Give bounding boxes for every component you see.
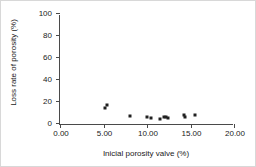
y-axis-title: Loss rate of porosity (%) — [9, 8, 18, 118]
y-axis-tick: 40 — [56, 79, 60, 80]
x-axis-tick: 5.00 — [104, 124, 105, 128]
data-point — [149, 116, 152, 119]
data-point — [159, 117, 162, 120]
y-axis-tick: 100 — [56, 13, 60, 14]
data-point — [146, 116, 149, 119]
data-point — [129, 115, 132, 118]
x-axis-tick-label: 5.00 — [97, 130, 113, 138]
y-axis-tick-label: 0 — [48, 120, 52, 128]
data-point — [184, 115, 187, 118]
x-axis-tick-label: 15.00 — [181, 130, 201, 138]
data-point — [193, 114, 196, 117]
x-axis-title: Inicial porosity valve (%) — [59, 149, 233, 158]
data-point — [167, 116, 170, 119]
plot-area: 020406080100 0.005.0010.0015.0020.00 — [59, 15, 233, 125]
y-axis-tick-label: 60 — [43, 54, 52, 62]
y-axis-tick-label: 40 — [43, 76, 52, 84]
x-axis-tick: 10.00 — [147, 124, 148, 128]
x-axis-tick-label: 20.00 — [225, 130, 245, 138]
chart-screenshot: 020406080100 0.005.0010.0015.0020.00 Los… — [0, 0, 256, 167]
y-axis-tick-label: 80 — [43, 32, 52, 40]
x-axis-tick-label: 0.00 — [53, 130, 69, 138]
x-axis-tick: 15.00 — [191, 124, 192, 128]
data-point — [105, 104, 108, 107]
x-axis-tick-label: 10.00 — [138, 130, 158, 138]
y-axis-tick-label: 20 — [43, 98, 52, 106]
x-axis-tick: 0.00 — [60, 124, 61, 128]
y-axis-tick: 20 — [56, 101, 60, 102]
y-axis-tick: 80 — [56, 35, 60, 36]
y-axis-tick: 60 — [56, 57, 60, 58]
y-axis-tick-label: 100 — [39, 10, 52, 18]
x-axis-tick: 20.00 — [234, 124, 235, 128]
